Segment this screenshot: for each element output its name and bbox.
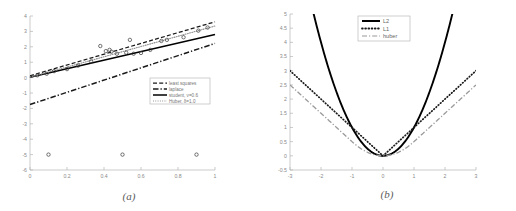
x-tick-label-b: 0 — [382, 173, 385, 179]
fit-line-huber — [30, 26, 215, 77]
y-tick-label-b: 2 — [284, 96, 287, 102]
y-tick-label-a: -4 — [22, 136, 27, 142]
loss-curve-huber — [290, 85, 476, 156]
plot-a: 43210-1-2-3-4-5-6 00.20.40.60.81 least s… — [0, 0, 258, 186]
plot-b: 54.543.532.521.510.50-0.5 -3-2-10123 L2L… — [258, 0, 516, 186]
x-tick-label-b: 3 — [475, 173, 478, 179]
data-point — [125, 51, 128, 54]
x-tick-label-b: -2 — [319, 173, 324, 179]
x-tick-label-b: -3 — [288, 173, 293, 179]
legend-b: L2L1huber — [358, 16, 410, 41]
y-tick-label-a: -6 — [22, 167, 27, 173]
y-tick-label-b: -0.5 — [278, 167, 287, 173]
caption-b: (b) — [258, 188, 516, 200]
x-tick-label-a: 0.8 — [174, 173, 181, 179]
fit-line-student — [30, 34, 215, 77]
legend-label-a: least squares — [169, 81, 197, 86]
legend-a: least squareslaplacestudent, ν=0.6Huber,… — [150, 78, 210, 104]
y-tick-label-b: 1.5 — [280, 110, 287, 116]
y-tick-label-a: -1 — [22, 90, 27, 96]
x-tick-label-a: 1 — [214, 173, 217, 179]
data-point — [195, 153, 198, 156]
legend-label-a: student, ν=0.6 — [169, 93, 198, 98]
y-tick-label-a: 4 — [24, 13, 27, 19]
legend-label-b: huber — [383, 33, 397, 39]
y-tick-label-a: 0 — [24, 75, 27, 81]
x-tick-label-a: 0.6 — [137, 173, 144, 179]
loss-curve-l1 — [290, 71, 476, 156]
subfigure-a: 43210-1-2-3-4-5-6 00.20.40.60.81 least s… — [0, 0, 258, 211]
y-ticks-a: 43210-1-2-3-4-5-6 — [22, 13, 33, 173]
y-tick-label-b: 3 — [284, 68, 287, 74]
x-tick-label-b: 1 — [413, 173, 416, 179]
legend-label-b: L2 — [383, 18, 389, 24]
x-tick-label-a: 0 — [29, 173, 32, 179]
y-tick-label-b: 0.5 — [280, 139, 287, 145]
data-point — [182, 36, 185, 39]
y-tick-label-a: 3 — [24, 28, 27, 34]
figure-row: 43210-1-2-3-4-5-6 00.20.40.60.81 least s… — [0, 0, 516, 211]
x-ticks-a: 00.20.40.60.81 — [29, 167, 217, 179]
data-point — [128, 38, 131, 41]
y-tick-label-a: -2 — [22, 105, 27, 111]
caption-a: (a) — [0, 190, 258, 202]
data-point — [99, 44, 102, 47]
y-ticks-b: 54.543.532.521.510.50-0.5 — [278, 11, 293, 173]
data-point — [121, 153, 124, 156]
x-ticks-b: -3-2-10123 — [288, 167, 478, 179]
x-tick-label-a: 0.4 — [100, 173, 107, 179]
x-tick-label-a: 0.2 — [63, 173, 70, 179]
legend-label-a: laplace — [169, 87, 184, 92]
data-point — [47, 153, 50, 156]
y-tick-label-a: 1 — [24, 59, 27, 65]
y-tick-label-b: 2.5 — [280, 82, 287, 88]
y-tick-label-b: 4 — [284, 39, 287, 45]
legend-label-b: L1 — [383, 26, 389, 32]
subfigure-b: 54.543.532.521.510.50-0.5 -3-2-10123 L2L… — [258, 0, 516, 211]
y-tick-label-a: -5 — [22, 152, 27, 158]
legend-label-a: Huber, δ=1.0 — [169, 99, 196, 104]
y-tick-label-b: 5 — [284, 11, 287, 17]
y-tick-label-b: 1 — [284, 124, 287, 130]
y-tick-label-b: 0 — [284, 153, 287, 159]
y-tick-label-b: 3.5 — [280, 53, 287, 59]
x-tick-label-b: -1 — [350, 173, 355, 179]
y-tick-label-a: -3 — [22, 121, 27, 127]
x-tick-label-b: 2 — [444, 173, 447, 179]
y-tick-label-b: 4.5 — [280, 25, 287, 31]
data-point — [104, 49, 107, 52]
fit-line-least-squares — [30, 22, 215, 76]
y-tick-label-a: 2 — [24, 44, 27, 50]
